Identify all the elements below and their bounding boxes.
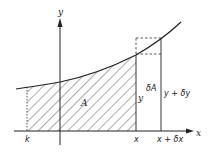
- x-axis-label: x: [196, 128, 201, 138]
- area-label: A: [80, 98, 88, 108]
- x-plus-dx-tick-label: x + δx: [156, 135, 183, 144]
- y-axis-label: y: [57, 7, 64, 17]
- area-under-curve-diagram: y x A y δA y + δy k x x + δx: [0, 0, 209, 154]
- hatched-area-a: [27, 55, 136, 131]
- height-y-label: y: [137, 93, 144, 103]
- lower-limit-label: k: [25, 135, 30, 144]
- height-y-plus-label: y + δy: [163, 89, 190, 98]
- x-tick-label: x: [133, 135, 139, 144]
- delta-area-label: δA: [146, 84, 156, 93]
